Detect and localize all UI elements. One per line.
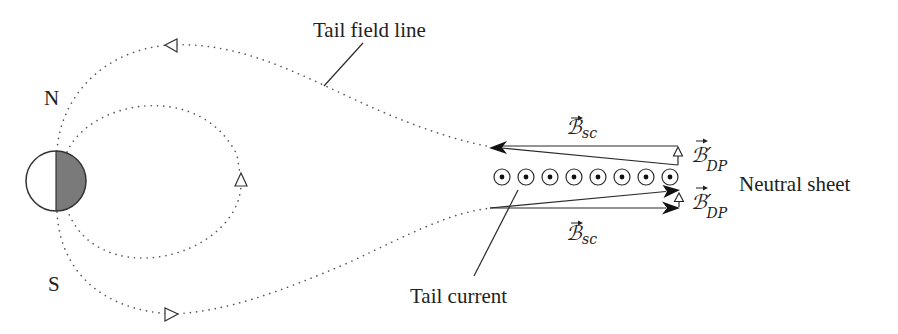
b-sc-lower-symbol: ℬ bbox=[566, 221, 583, 245]
current-out-of-page-icon bbox=[518, 169, 534, 185]
tail-current-markers bbox=[494, 169, 678, 185]
field-direction-left-icon bbox=[165, 39, 177, 52]
b-sc-upper-arrowhead-icon bbox=[489, 141, 507, 154]
current-out-of-page-icon bbox=[494, 169, 510, 185]
current-out-of-page-icon bbox=[614, 169, 630, 185]
south-label: S bbox=[48, 272, 60, 296]
b-dp-lower-arrowhead-icon bbox=[675, 193, 684, 202]
current-out-of-page-icon bbox=[638, 169, 654, 185]
tail-field-line-leader bbox=[324, 43, 363, 86]
earth-night-side bbox=[56, 151, 86, 211]
b-sc-lower-label: ℬsc bbox=[566, 221, 597, 247]
tail-field-line-label: Tail field line bbox=[313, 18, 426, 42]
b-sc-upper-subscript: sc bbox=[582, 125, 597, 141]
earth bbox=[26, 151, 86, 211]
neutral-sheet-label: Neutral sheet bbox=[739, 172, 851, 196]
b-total-upper-line bbox=[502, 148, 678, 165]
b-dp-upper-arrowhead-icon bbox=[674, 147, 683, 156]
tail-current-leader bbox=[474, 190, 518, 276]
b-dp-upper-symbol: ℬ bbox=[691, 143, 708, 167]
current-out-of-page-icon bbox=[590, 169, 606, 185]
current-out-of-page-icon bbox=[566, 169, 582, 185]
north-label: N bbox=[44, 86, 59, 110]
b-dp-lower-subscript: DP bbox=[706, 205, 728, 221]
b-dp-upper-label: ℬ′DP bbox=[691, 143, 728, 174]
field-direction-up-icon bbox=[235, 173, 247, 186]
field-direction-right-icon bbox=[165, 308, 178, 321]
b-dp-lower-label: ℬ′DP bbox=[691, 190, 728, 221]
current-out-of-page-icon bbox=[662, 169, 678, 185]
lower-field-vectors bbox=[490, 185, 684, 215]
tail-current-label: Tail current bbox=[410, 284, 507, 308]
upper-field-vectors bbox=[489, 141, 683, 165]
magnetotail-diagram: ℬsc ℬ′DP ℬ′DP ℬsc Tail field line N S Ne… bbox=[0, 0, 898, 334]
b-sc-upper-symbol: ℬ bbox=[566, 115, 583, 139]
b-sc-lower-subscript: sc bbox=[582, 231, 597, 247]
current-out-of-page-icon bbox=[542, 169, 558, 185]
b-dp-lower-symbol: ℬ bbox=[691, 190, 708, 214]
b-dp-upper-subscript: DP bbox=[706, 158, 728, 174]
closed-field-line bbox=[67, 106, 241, 258]
b-sc-upper-label: ℬsc bbox=[566, 115, 597, 141]
tail-field-line-north bbox=[57, 45, 492, 151]
